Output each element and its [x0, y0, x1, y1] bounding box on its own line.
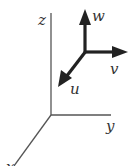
- arrowhead-icon: [112, 46, 128, 58]
- z-axis-label: z: [37, 11, 46, 29]
- arrowhead-icon: [79, 9, 91, 25]
- u-arrow-shaft: [66, 51, 86, 77]
- v-vector: [84, 46, 128, 58]
- x-axis: [14, 115, 51, 166]
- x-axis-label: x: [6, 158, 15, 166]
- coordinate-diagram: z y x w v u: [0, 0, 135, 166]
- w-vector-label: w: [92, 7, 105, 25]
- w-vector: [79, 9, 91, 53]
- u-vector-label: u: [70, 80, 80, 98]
- y-axis-label: y: [105, 117, 115, 135]
- v-vector-label: v: [110, 60, 119, 78]
